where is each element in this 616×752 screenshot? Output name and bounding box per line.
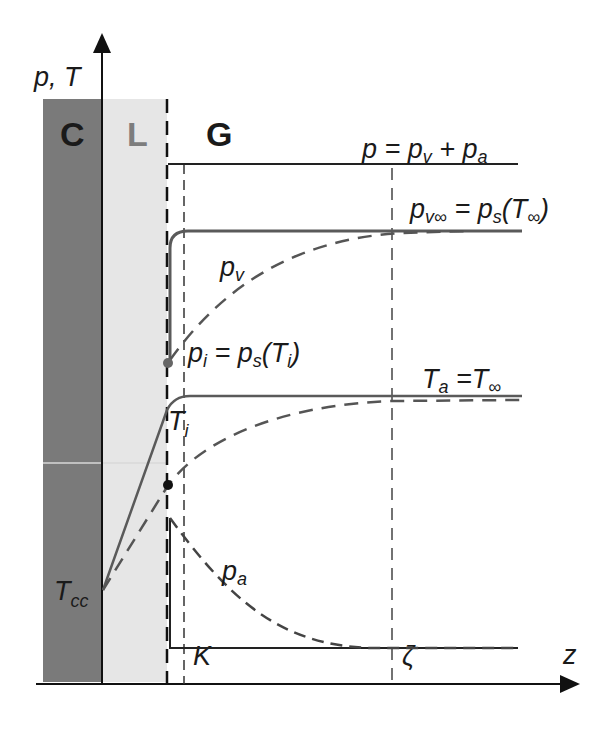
y-axis-arrowhead (93, 33, 111, 53)
region-label-c: C (60, 115, 85, 153)
interface-temperature-point (163, 480, 173, 490)
region-l-band (102, 99, 167, 682)
interface-pressure-point (163, 358, 173, 368)
vapor-far-label: pv∞ = ps(T∞) (409, 194, 549, 227)
region-label-l: L (127, 115, 148, 153)
vapor-pressure-label: pv (219, 252, 245, 285)
x-axis-arrowhead (560, 675, 580, 693)
total-pressure-label: p = pv + pa (361, 134, 488, 167)
interface-temperature-label: Ti (168, 406, 190, 441)
zeta-marker-label: ζ (402, 641, 416, 671)
interface-pressure-label: pi = ps(Ti) (187, 338, 300, 371)
k-marker-label: K (193, 641, 212, 671)
x-axis-label: z (562, 640, 577, 670)
air-pressure-label: pa (221, 556, 247, 589)
y-axis-label: p, T (33, 62, 83, 92)
temperature-far-label: Ta =T∞ (422, 364, 501, 397)
diagram-figure: C L G p, T z K ζ p = pv + pa pv∞ = ps(T∞… (0, 0, 616, 752)
region-label-g: G (206, 115, 232, 153)
